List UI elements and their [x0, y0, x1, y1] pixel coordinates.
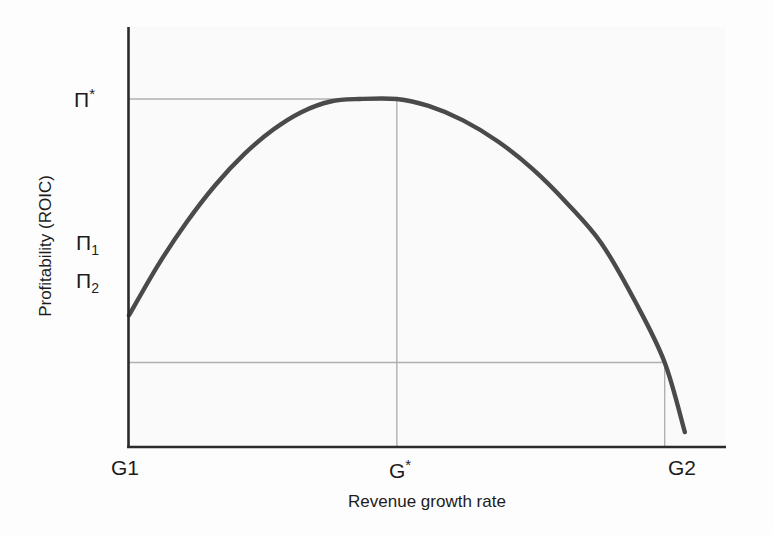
x-tick-g-two-base: G2: [668, 456, 696, 479]
y-tick-pi-one-subscript: 1: [91, 242, 99, 258]
y-tick-label-pi-star: Π*: [74, 86, 95, 110]
profitability-curve: [129, 98, 685, 432]
y-axis-title: Profitability (ROIC): [36, 116, 56, 376]
x-tick-g-one-base: G1: [111, 456, 139, 479]
y-tick-label-pi-one: Π1: [76, 232, 99, 257]
chart-figure: Π* Π1 Π2 G1 G* G2 Profitability (ROIC) R…: [0, 0, 773, 535]
y-tick-label-pi-two: Π2: [76, 270, 99, 295]
x-axis-title: Revenue growth rate: [129, 492, 725, 512]
x-tick-g-star-base: G: [389, 459, 405, 482]
x-tick-label-g-one: G1: [111, 457, 139, 478]
x-tick-g-star-superscript: *: [405, 456, 411, 473]
y-tick-pi-star-base: Π: [74, 88, 89, 111]
y-tick-pi-one-base: Π: [76, 231, 91, 254]
x-tick-label-g-two: G2: [668, 457, 696, 478]
y-tick-pi-two-subscript: 2: [91, 280, 99, 296]
y-tick-pi-two-base: Π: [76, 269, 91, 292]
x-tick-label-g-star: G*: [389, 457, 411, 481]
y-tick-pi-star-superscript: *: [89, 85, 95, 102]
chart-canvas: [0, 0, 773, 535]
